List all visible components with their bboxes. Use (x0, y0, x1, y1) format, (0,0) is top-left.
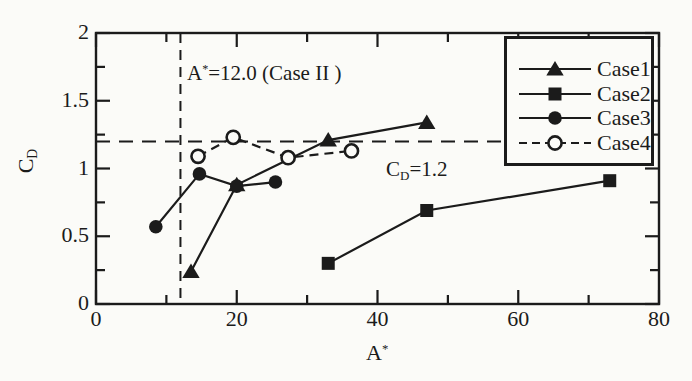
case4-legend-marker (548, 136, 561, 149)
series-case4 (191, 131, 358, 165)
x-axis-title-sup: * (382, 342, 388, 356)
y-tick-label-0.5: 0.5 (37, 223, 89, 247)
case2-legend-sample (517, 82, 593, 106)
legend-label-case4: Case4 (597, 132, 651, 154)
annotation-hline-sub: D (400, 168, 409, 183)
case2-marker (420, 204, 433, 217)
case3-marker (269, 175, 283, 189)
case2-line (328, 181, 610, 264)
legend-label-case1: Case1 (597, 58, 651, 80)
case3-marker (230, 179, 244, 193)
case4-marker (227, 131, 240, 144)
y-tick-label-1: 1 (37, 156, 89, 180)
annotation-vline-rest: =12.0 (Case II ) (208, 61, 341, 85)
x-axis-title-main: A (366, 340, 382, 365)
y-tick-label-1.5: 1.5 (37, 88, 89, 112)
y-axis-title-main: C (13, 159, 38, 174)
y-axis-title: CD (14, 149, 38, 174)
case3-line (156, 174, 276, 227)
y-axis-title-sub: D (25, 149, 40, 159)
case4-marker (345, 144, 358, 157)
legend-box: Case1 Case2 Case3 Case4 (504, 36, 654, 166)
x-axis-title: A* (366, 341, 388, 365)
case1-marker (418, 114, 435, 128)
case4-marker (282, 151, 295, 164)
case1-line (191, 122, 427, 271)
case1-legend-sample (517, 57, 593, 81)
legend-item-case2: Case2 (517, 82, 651, 107)
case3-legend-marker (548, 111, 562, 125)
y-tick-label-0: 0 (37, 291, 89, 315)
legend-item-case1: Case1 (517, 57, 651, 82)
x-tick-label-20: 20 (207, 307, 267, 331)
y-tick-label-2: 2 (37, 20, 89, 44)
series-case2 (322, 174, 617, 270)
case4-legend-sample (517, 131, 593, 155)
case1-marker (182, 263, 199, 278)
case2-legend-marker (549, 87, 562, 100)
case4-marker (191, 150, 204, 163)
x-tick-label-60: 60 (488, 307, 548, 331)
case3-marker (193, 167, 207, 181)
case2-marker (322, 257, 335, 270)
annotation-hline-label: CD=1.2 (386, 157, 448, 182)
legend-item-case4: Case4 (517, 131, 651, 156)
legend-label-case3: Case3 (597, 107, 651, 129)
series-case1 (182, 114, 435, 278)
case3-marker (149, 220, 163, 234)
case2-marker (603, 174, 616, 187)
annotation-hline-main: C (386, 157, 400, 181)
annotation-hline-rest: =1.2 (409, 157, 447, 181)
x-tick-label-40: 40 (348, 307, 408, 331)
x-tick-label-80: 80 (629, 307, 689, 331)
figure-root: 02040608000.511.52 A* CD A*=12.0 (Case I… (0, 0, 692, 381)
legend-label-case2: Case2 (597, 83, 651, 105)
annotation-vline-label: A*=12.0 (Case II ) (187, 61, 341, 86)
annotation-vline-main: A (187, 61, 202, 85)
case3-legend-sample (517, 106, 593, 130)
legend-item-case3: Case3 (517, 106, 651, 131)
